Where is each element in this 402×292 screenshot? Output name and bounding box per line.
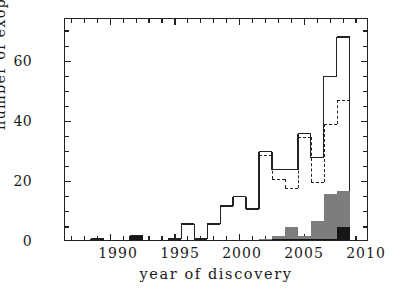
dashed-step-segment bbox=[298, 137, 311, 138]
x-axis-tick bbox=[110, 19, 111, 25]
y-tick-label-40: 40 bbox=[14, 113, 32, 129]
dashed-step-segment bbox=[311, 182, 324, 183]
dashed-step-segment bbox=[337, 100, 338, 124]
histogram-bar bbox=[311, 221, 324, 240]
y-axis-tick bbox=[65, 151, 69, 152]
dashed-step-segment bbox=[285, 188, 298, 189]
solid-step-segment bbox=[323, 76, 324, 157]
x-axis-tick bbox=[84, 236, 85, 240]
y-axis-tick bbox=[65, 106, 69, 107]
solid-step-segment bbox=[91, 238, 104, 239]
solid-step-segment bbox=[181, 224, 182, 239]
dashed-step-segment bbox=[324, 124, 337, 125]
histogram-bar bbox=[311, 239, 324, 240]
x-axis-tick bbox=[226, 19, 227, 23]
x-axis-tick bbox=[304, 19, 305, 25]
solid-step-segment bbox=[232, 197, 233, 206]
solid-step-segment bbox=[298, 133, 311, 134]
y-axis-tick bbox=[363, 30, 367, 31]
histogram-bar bbox=[130, 236, 143, 240]
solid-step-segment bbox=[258, 152, 259, 209]
y-axis-tick bbox=[361, 121, 367, 122]
x-axis-tick bbox=[84, 19, 85, 23]
x-axis-tick bbox=[71, 19, 72, 23]
solid-step-segment bbox=[194, 224, 195, 239]
y-axis-tick bbox=[363, 196, 367, 197]
x-axis-tick bbox=[148, 19, 149, 23]
solid-step-segment bbox=[233, 196, 246, 197]
y-tick-label-20: 20 bbox=[14, 173, 32, 189]
x-tick-label-2010: 2010 bbox=[346, 245, 386, 261]
figure-canvas: number of exoplanets year of discovery 0… bbox=[0, 0, 402, 292]
y-axis-tick bbox=[65, 61, 71, 62]
x-axis-tick bbox=[123, 236, 124, 240]
solid-step-segment bbox=[194, 238, 207, 239]
y-tick-label-0: 0 bbox=[23, 233, 32, 249]
solid-step-segment bbox=[168, 238, 181, 239]
histogram-bar bbox=[337, 227, 350, 240]
plot-frame bbox=[64, 18, 368, 241]
x-axis-tick bbox=[97, 19, 98, 23]
x-tick-label-2000: 2000 bbox=[222, 245, 262, 261]
solid-step-segment bbox=[245, 197, 246, 209]
solid-step-segment bbox=[311, 157, 324, 158]
x-axis-tick bbox=[123, 19, 124, 23]
solid-step-segment bbox=[259, 151, 272, 152]
solid-step-segment bbox=[272, 169, 285, 170]
y-axis-tick bbox=[363, 136, 367, 137]
x-axis-tick bbox=[213, 236, 214, 240]
y-axis-tick bbox=[65, 76, 69, 77]
x-axis-tick bbox=[343, 19, 344, 23]
x-tick-label-1995: 1995 bbox=[160, 245, 200, 261]
x-axis-tick bbox=[213, 19, 214, 23]
solid-step-segment bbox=[324, 76, 337, 77]
x-tick-label-2005: 2005 bbox=[284, 245, 324, 261]
dashed-step-segment bbox=[272, 179, 285, 180]
y-axis-tick bbox=[65, 46, 69, 47]
histogram-bar bbox=[259, 239, 272, 240]
solid-step-segment bbox=[207, 224, 208, 239]
y-axis-title: number of exoplanets bbox=[0, 0, 8, 130]
solid-step-segment bbox=[103, 239, 104, 240]
y-axis-tick bbox=[363, 91, 367, 92]
x-axis-tick bbox=[265, 19, 266, 23]
y-axis-tick bbox=[65, 30, 69, 31]
dashed-step-segment bbox=[259, 155, 272, 156]
x-axis-tick bbox=[110, 234, 111, 240]
x-axis-tick bbox=[148, 236, 149, 240]
y-axis-tick bbox=[363, 166, 367, 167]
solid-step-segment bbox=[310, 134, 311, 158]
x-axis-tick bbox=[252, 236, 253, 240]
x-axis-tick bbox=[252, 19, 253, 23]
y-axis-tick bbox=[361, 61, 367, 62]
x-axis-tick bbox=[200, 19, 201, 23]
y-axis-tick bbox=[363, 106, 367, 107]
y-axis-tick bbox=[363, 211, 367, 212]
x-axis-tick bbox=[355, 19, 356, 23]
y-axis-tick bbox=[65, 166, 69, 167]
x-axis-tick bbox=[136, 19, 137, 23]
solid-step-segment bbox=[297, 134, 298, 170]
x-axis-title: year of discovery bbox=[140, 266, 293, 282]
plot-area bbox=[65, 19, 367, 240]
solid-step-segment bbox=[246, 208, 259, 209]
x-axis-tick bbox=[239, 234, 240, 240]
y-axis-tick bbox=[363, 76, 367, 77]
solid-step-segment bbox=[336, 37, 337, 76]
y-tick-label-60: 60 bbox=[14, 53, 32, 69]
solid-step-segment bbox=[181, 223, 194, 224]
x-axis-tick bbox=[174, 19, 175, 25]
histogram-bar bbox=[324, 239, 337, 240]
y-axis-tick bbox=[65, 121, 71, 122]
y-axis-tick bbox=[65, 226, 69, 227]
y-axis-tick bbox=[65, 91, 69, 92]
y-axis-tick bbox=[65, 211, 69, 212]
solid-step-segment bbox=[271, 152, 272, 170]
y-axis-tick bbox=[65, 196, 69, 197]
y-axis-tick bbox=[65, 136, 69, 137]
solid-step-segment bbox=[220, 206, 221, 224]
histogram-bar bbox=[272, 239, 285, 240]
solid-step-segment bbox=[207, 223, 220, 224]
solid-step-segment bbox=[220, 205, 233, 206]
x-axis-tick bbox=[187, 236, 188, 240]
